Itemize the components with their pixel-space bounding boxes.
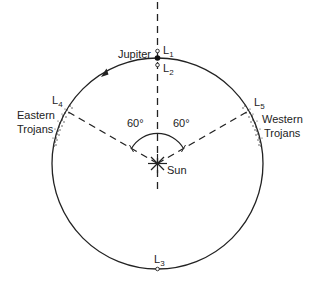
l2-label: L2 [163, 62, 174, 77]
lagrange-diagram: Jupiter L1 L2 L3 L4 L5 Eastern Trojans W… [0, 0, 315, 284]
l1-label: L1 [163, 44, 174, 59]
western-trojans-label-line1: Western [262, 113, 303, 125]
western-trojans-cluster [242, 105, 262, 147]
l3-point-icon [156, 267, 160, 271]
eastern-trojans-cluster [52, 105, 72, 147]
sun-icon [148, 154, 167, 173]
l5-label: L5 [254, 96, 265, 111]
l4-label: L4 [52, 94, 63, 109]
angle-right-label: 60° [173, 117, 190, 129]
jupiter-icon [155, 55, 161, 61]
orbit-direction-arrow-icon [101, 69, 109, 78]
l2-point-icon [156, 63, 160, 67]
sun-label: Sun [167, 164, 187, 176]
l3-label: L3 [154, 253, 165, 268]
eastern-trojans-label-line2: Trojans [17, 123, 54, 135]
eastern-trojans-label-line1: Eastern [17, 109, 55, 121]
l1-point-icon [156, 49, 160, 53]
jupiter-label: Jupiter [118, 48, 151, 60]
western-trojans-label-line2: Trojans [264, 127, 301, 139]
angle-left-label: 60° [127, 117, 144, 129]
